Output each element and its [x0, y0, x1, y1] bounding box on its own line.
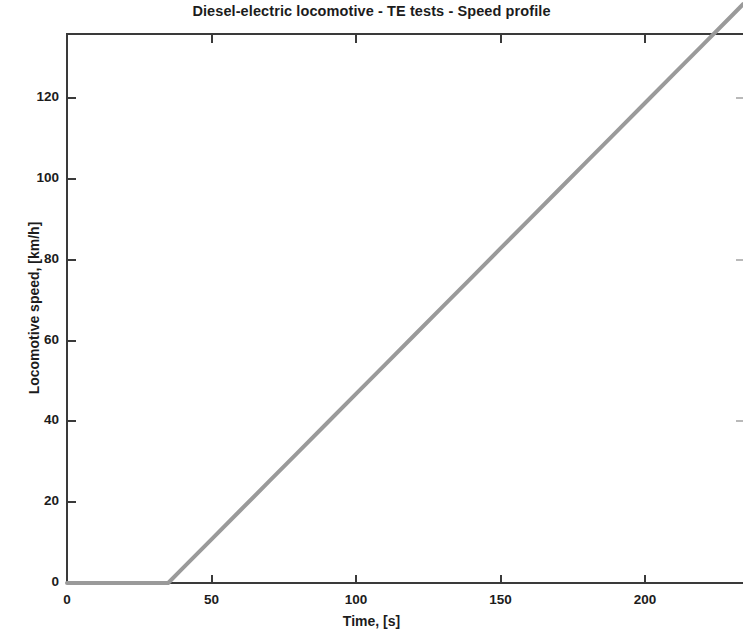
x-tick-mark-top — [644, 35, 646, 43]
x-tick-mark-top — [211, 35, 213, 43]
speed-profile-line — [67, 4, 743, 583]
x-tick-label: 150 — [471, 592, 531, 607]
y-tick-label: 20 — [1, 493, 59, 508]
x-tick-label: 0 — [37, 592, 97, 607]
y-tick-mark — [68, 420, 76, 422]
chart-figure: Diesel-electric locomotive - TE tests - … — [0, 0, 743, 637]
chart-title: Diesel-electric locomotive - TE tests - … — [0, 3, 743, 19]
y-tick-mark — [68, 97, 76, 99]
x-tick-mark — [355, 575, 357, 583]
top-axis-line — [66, 33, 743, 35]
y-tick-mark — [68, 582, 76, 584]
x-tick-label: 200 — [615, 592, 675, 607]
x-tick-mark-top — [66, 35, 68, 43]
y-tick-mark — [68, 340, 76, 342]
y-tick-label: 100 — [1, 170, 59, 185]
y-tick-mark — [68, 259, 76, 261]
right-tick-mark — [736, 259, 743, 261]
x-tick-label: 100 — [326, 592, 386, 607]
x-tick-mark-top — [500, 35, 502, 43]
x-axis-line — [66, 582, 743, 584]
y-tick-mark — [68, 501, 76, 503]
right-tick-mark — [736, 97, 743, 99]
y-tick-mark — [68, 178, 76, 180]
right-tick-mark — [736, 420, 743, 422]
y-axis-label: Locomotive speed, [km/h] — [26, 188, 42, 428]
data-series-layer — [0, 0, 743, 637]
x-tick-mark — [644, 575, 646, 583]
x-tick-label: 50 — [182, 592, 242, 607]
y-tick-label: 120 — [1, 89, 59, 104]
x-tick-mark — [500, 575, 502, 583]
x-tick-mark — [66, 575, 68, 583]
x-tick-mark-top — [355, 35, 357, 43]
x-tick-mark — [211, 575, 213, 583]
x-axis-label: Time, [s] — [0, 613, 743, 629]
y-tick-label: 0 — [1, 574, 59, 589]
